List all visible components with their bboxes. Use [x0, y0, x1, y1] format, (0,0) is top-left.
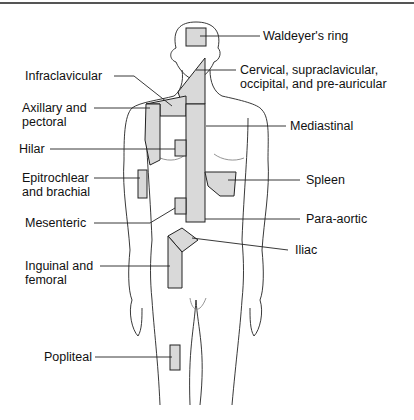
- lymph-node-diagram: Waldeyer's ring Cervical, supraclavicula…: [0, 0, 414, 420]
- label-axillary: Axillary and pectoral: [22, 101, 87, 129]
- spleen-region: [205, 172, 236, 196]
- waldeyer-region: [186, 28, 206, 46]
- epitrochlear-region: [138, 170, 147, 198]
- label-cervical: Cervical, supraclavicular, occipital, an…: [240, 63, 387, 91]
- popliteal-region: [170, 345, 180, 370]
- label-hilar: Hilar: [19, 142, 45, 156]
- hilar-region: [175, 140, 186, 156]
- label-mesenteric: Mesenteric: [25, 216, 86, 230]
- label-waldeyers-ring: Waldeyer's ring: [263, 29, 348, 43]
- label-inguinal: Inguinal and femoral: [25, 259, 93, 287]
- mediastinal-region: [186, 104, 205, 222]
- label-spleen: Spleen: [306, 173, 345, 187]
- label-mediastinal: Mediastinal: [290, 119, 353, 133]
- label-para-aortic: Para-aortic: [306, 212, 367, 226]
- mesenteric-region: [175, 198, 186, 214]
- label-popliteal: Popliteal: [44, 350, 92, 364]
- label-epitrochlear: Epitrochlear and brachial: [22, 171, 90, 199]
- label-infraclavicular: Infraclavicular: [25, 69, 102, 83]
- label-iliac: Iliac: [295, 243, 317, 257]
